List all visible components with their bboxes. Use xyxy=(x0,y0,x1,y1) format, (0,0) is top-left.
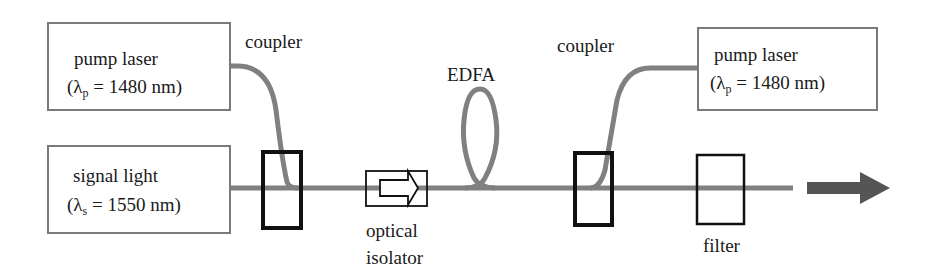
filter-label: filter xyxy=(703,235,740,257)
isolator-arrow-icon xyxy=(380,171,418,205)
pump-laser-right-box: pump laser (λp = 1480 nm) xyxy=(697,27,878,111)
coupler-left-label: coupler xyxy=(245,31,302,53)
pump-laser-left-label: pump laser xyxy=(74,48,158,70)
signal-light-box: signal light (λs = 1550 nm) xyxy=(47,145,231,234)
isolator-label-line2: isolator xyxy=(366,247,423,269)
pump-laser-left-box: pump laser (λp = 1480 nm) xyxy=(47,22,231,111)
signal-light-wavelength: (λs = 1550 nm) xyxy=(67,194,181,219)
output-arrow-shaft xyxy=(807,182,861,194)
signal-light-label: signal light xyxy=(73,165,158,187)
pump-laser-left-wavelength: (λp = 1480 nm) xyxy=(67,76,182,101)
output-arrow-icon xyxy=(860,172,890,204)
isolator-label-line1: optical xyxy=(366,220,418,242)
pump-laser-right-label: pump laser xyxy=(714,44,798,66)
edfa-label: EDFA xyxy=(447,64,495,86)
coupler-right-label: coupler xyxy=(557,35,614,57)
pump-laser-right-wavelength: (λp = 1480 nm) xyxy=(710,72,825,97)
right-pump-fiber xyxy=(590,68,697,188)
edfa-loop-icon xyxy=(463,89,496,188)
